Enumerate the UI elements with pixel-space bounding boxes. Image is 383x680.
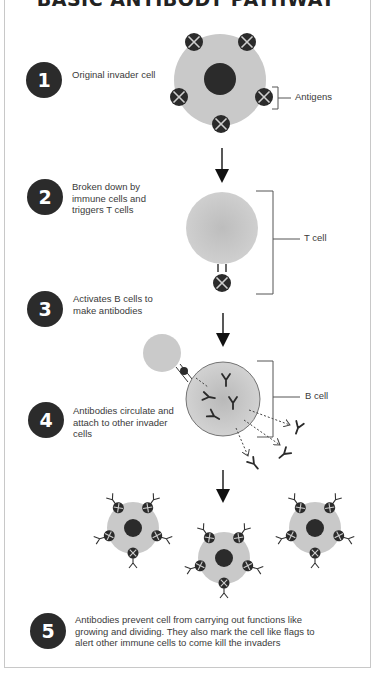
antibody-icon bbox=[292, 421, 304, 435]
antigens-label: Antigens bbox=[295, 91, 332, 102]
antigen-icon bbox=[255, 88, 273, 106]
t-cell-label: T cell bbox=[304, 232, 327, 243]
b-cell-label: B cell bbox=[305, 390, 328, 401]
step-1-badge: 1 bbox=[26, 62, 62, 98]
antigen-icon bbox=[180, 367, 188, 375]
t-cell-receptor bbox=[218, 264, 226, 272]
step-2-badge: 2 bbox=[27, 179, 63, 215]
b-cell bbox=[186, 362, 260, 436]
step-5-text: Antibodies prevent cell from carrying ou… bbox=[75, 614, 335, 649]
step-5-badge: 5 bbox=[30, 613, 66, 649]
tagged-invader-cell bbox=[184, 522, 263, 598]
invader-nucleus bbox=[204, 63, 236, 95]
b-cell-bracket bbox=[257, 361, 300, 437]
t-cell bbox=[186, 192, 258, 264]
activating-cell bbox=[143, 334, 181, 372]
t-cell-bracket bbox=[256, 191, 300, 294]
antibody-icon bbox=[277, 447, 291, 461]
antigen-icon bbox=[185, 33, 203, 51]
step-2-text: Broken down by immune cells and triggers… bbox=[72, 181, 172, 216]
step-3-text: Activates B cells to make antibodies bbox=[73, 293, 153, 316]
antibody-icon bbox=[247, 457, 261, 471]
antigen-icon bbox=[238, 33, 256, 51]
invader-cell bbox=[170, 33, 273, 133]
step-4-text: Antibodies circulate and attach to other… bbox=[73, 405, 183, 440]
tagged-invader-cell bbox=[275, 492, 354, 568]
antigen-icon bbox=[170, 88, 188, 106]
step-4-badge: 4 bbox=[28, 402, 64, 438]
pathway-diagram bbox=[0, 0, 383, 680]
dotted-arrow bbox=[236, 428, 248, 456]
step-3-badge: 3 bbox=[27, 291, 63, 327]
tagged-invader-cell bbox=[93, 492, 172, 568]
antigen-icon bbox=[212, 115, 230, 133]
antigen-icon bbox=[213, 274, 231, 292]
step-1-text: Original invader cell bbox=[72, 69, 182, 81]
antigens-bracket bbox=[272, 87, 291, 109]
